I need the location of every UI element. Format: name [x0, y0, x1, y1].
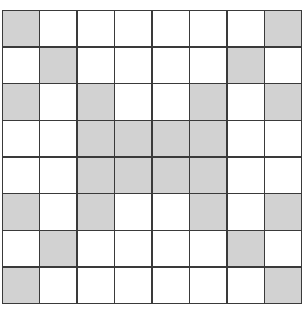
empty-cell	[40, 268, 76, 303]
shaded-cell	[153, 121, 189, 156]
shaded-cell	[190, 194, 226, 229]
empty-cell	[78, 231, 114, 266]
empty-cell	[115, 11, 151, 46]
shaded-cell	[78, 194, 114, 229]
shaded-cell	[265, 84, 301, 119]
shaded-cell	[228, 48, 264, 83]
empty-cell	[40, 194, 76, 229]
empty-cell	[190, 48, 226, 83]
empty-cell	[115, 231, 151, 266]
empty-cell	[228, 194, 264, 229]
empty-cell	[153, 231, 189, 266]
pattern-grid	[2, 10, 302, 304]
empty-cell	[40, 11, 76, 46]
empty-cell	[78, 48, 114, 83]
shaded-cell	[228, 231, 264, 266]
empty-cell	[190, 268, 226, 303]
shaded-cell	[78, 158, 114, 193]
empty-cell	[190, 11, 226, 46]
shaded-cell	[3, 268, 39, 303]
shaded-cell	[265, 194, 301, 229]
empty-cell	[3, 158, 39, 193]
empty-cell	[153, 48, 189, 83]
shaded-cell	[3, 11, 39, 46]
empty-cell	[3, 48, 39, 83]
empty-cell	[115, 194, 151, 229]
empty-cell	[265, 121, 301, 156]
shaded-cell	[190, 121, 226, 156]
empty-cell	[265, 158, 301, 193]
empty-cell	[190, 231, 226, 266]
empty-cell	[40, 84, 76, 119]
shaded-cell	[40, 231, 76, 266]
empty-cell	[78, 11, 114, 46]
shaded-cell	[40, 48, 76, 83]
empty-cell	[153, 11, 189, 46]
empty-cell	[40, 121, 76, 156]
empty-cell	[78, 268, 114, 303]
shaded-cell	[3, 84, 39, 119]
empty-cell	[3, 121, 39, 156]
shaded-cell	[190, 84, 226, 119]
empty-cell	[265, 231, 301, 266]
shaded-cell	[3, 194, 39, 229]
empty-cell	[265, 48, 301, 83]
empty-cell	[115, 268, 151, 303]
empty-cell	[115, 48, 151, 83]
empty-cell	[228, 84, 264, 119]
empty-cell	[3, 231, 39, 266]
shaded-cell	[265, 268, 301, 303]
empty-cell	[228, 11, 264, 46]
shaded-cell	[265, 11, 301, 46]
shaded-cell	[115, 158, 151, 193]
empty-cell	[153, 84, 189, 119]
empty-cell	[153, 268, 189, 303]
shaded-cell	[115, 121, 151, 156]
shaded-cell	[153, 158, 189, 193]
empty-cell	[115, 84, 151, 119]
empty-cell	[228, 268, 264, 303]
empty-cell	[228, 121, 264, 156]
empty-cell	[153, 194, 189, 229]
shaded-cell	[78, 84, 114, 119]
shaded-cell	[78, 121, 114, 156]
empty-cell	[228, 158, 264, 193]
empty-cell	[40, 158, 76, 193]
shaded-cell	[190, 158, 226, 193]
